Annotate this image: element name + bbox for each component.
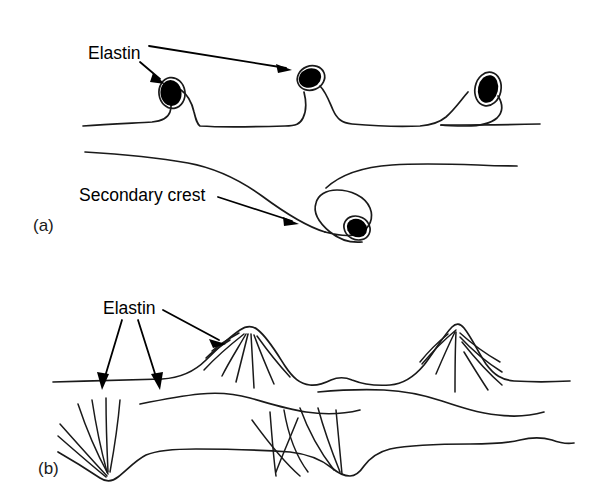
secondary-crest-label: Secondary crest — [79, 185, 206, 205]
anatomical-diagram: Elastin Secondary crest (a) — [0, 0, 593, 491]
panel-label-b: (b) — [38, 459, 59, 478]
elastin-label-a: Elastin — [88, 43, 141, 63]
panel-label-a: (a) — [33, 216, 54, 235]
figure-container: Elastin Secondary crest (a) — [0, 0, 593, 491]
figure-background — [0, 0, 593, 491]
elastin-label-b: Elastin — [103, 298, 156, 318]
panel-a-upper-wall-tail — [441, 124, 540, 125]
